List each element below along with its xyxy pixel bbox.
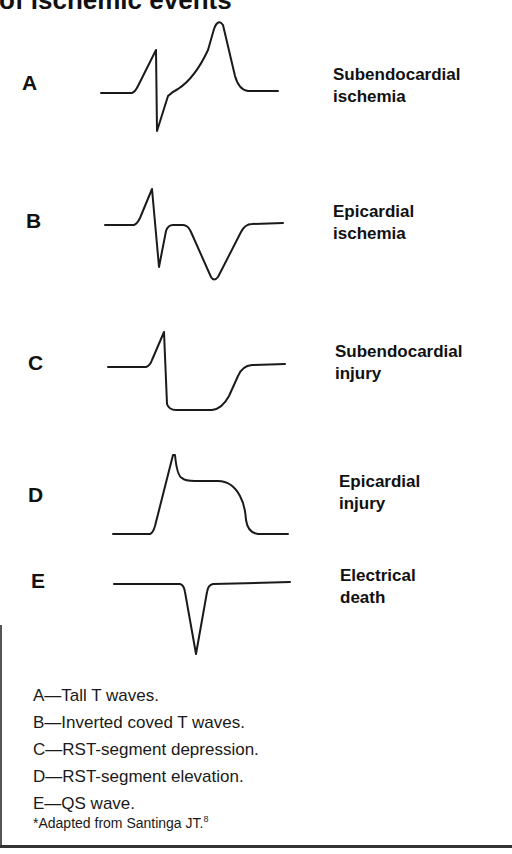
row-label-b: Epicardial ischemia [333,201,414,245]
row-letter-e: E [31,569,45,593]
row-letter-a: A [22,71,37,95]
row-label-a-line2: ischemia [333,86,461,108]
row-label-c-line2: injury [335,363,463,385]
row-label-b-line2: ischemia [333,223,414,245]
row-label-e-line2: death [340,587,416,609]
footnote-text: *Adapted from Santinga JT. [33,815,203,831]
legend-item-b: B—Inverted coved T waves. [33,709,259,736]
row-letter-d: D [28,483,43,507]
box-bottom-border [0,845,512,848]
legend: A—Tall T waves. B—Inverted coved T waves… [33,682,259,817]
row-letter-b: B [26,209,41,233]
legend-item-e: E—QS wave. [33,790,259,817]
footnote-ref: 8 [203,814,208,824]
row-label-c-line1: Subendocardial [335,341,463,363]
legend-item-c: C—RST-segment depression. [33,736,259,763]
row-label-e: Electrical death [340,565,416,609]
row-label-d-line2: injury [339,493,420,515]
legend-item-a: A—Tall T waves. [33,682,259,709]
row-label-d: Epicardial injury [339,471,420,515]
legend-item-d: D—RST-segment elevation. [33,763,259,790]
box-left-border [0,625,2,848]
row-label-c: Subendocardial injury [335,341,463,385]
footnote: *Adapted from Santinga JT.8 [33,814,208,831]
row-letter-c: C [28,351,43,375]
row-label-a: Subendocardial ischemia [333,64,461,108]
waveform-d [113,455,288,534]
waveform-a [101,22,278,131]
row-label-b-line1: Epicardial [333,201,414,223]
row-label-a-line1: Subendocardial [333,64,461,86]
row-label-d-line1: Epicardial [339,471,420,493]
waveform-e [114,582,290,654]
waveform-b [105,189,283,280]
waveform-c [108,332,285,410]
row-label-e-line1: Electrical [340,565,416,587]
